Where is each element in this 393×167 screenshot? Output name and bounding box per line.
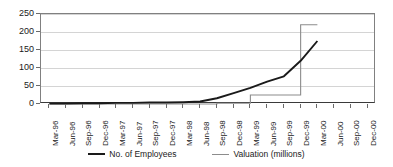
x-tick-mark: [132, 104, 133, 108]
x-tick-label: Sep-97: [152, 120, 160, 146]
x-tick-label: Mar-97: [119, 121, 127, 146]
x-tick-mark: [266, 104, 267, 108]
chart-container: 050100150200250 Mar-96Jun-96Sep-96Dec-96…: [0, 0, 393, 167]
x-tick-label: Mar-99: [253, 121, 261, 146]
x-tick-label: Jun-98: [203, 122, 211, 146]
x-tick-mark: [350, 104, 351, 108]
legend-item-employees: No. of Employees: [88, 150, 176, 159]
x-tick-label: Dec-98: [236, 120, 244, 146]
x-tick-mark: [249, 104, 250, 108]
x-tick-mark: [182, 104, 183, 108]
x-tick-mark: [166, 104, 167, 108]
y-tick-label: 150: [19, 45, 34, 54]
y-tick-label: 50: [24, 81, 34, 90]
series-line-valuation: [49, 25, 317, 104]
legend-swatch-employees-icon: [88, 153, 105, 155]
legend-label-employees: No. of Employees: [109, 150, 176, 159]
x-tick-mark: [48, 104, 49, 108]
y-tick-label: 250: [19, 9, 34, 18]
x-tick-label: Mar-98: [186, 121, 194, 146]
legend-item-valuation: Valuation (millions): [212, 150, 304, 159]
x-tick-mark: [65, 104, 66, 108]
legend-label-valuation: Valuation (millions): [233, 150, 304, 159]
x-tick-label: Dec-99: [303, 120, 311, 146]
y-tick-label: 0: [29, 99, 34, 108]
x-tick-mark: [216, 104, 217, 108]
x-tick-mark: [316, 104, 317, 108]
plot-area: [40, 13, 375, 103]
x-tick-label: Dec-00: [370, 120, 378, 146]
x-tick-label: Sep-98: [219, 120, 227, 146]
series-line-employees: [49, 41, 317, 104]
x-tick-mark: [333, 104, 334, 108]
x-tick-mark: [300, 104, 301, 108]
x-tick-label: Mar-96: [52, 121, 60, 146]
x-tick-label: Mar-00: [320, 121, 328, 146]
x-tick-label: Dec-97: [169, 120, 177, 146]
x-tick-mark: [367, 104, 368, 108]
chart-legend: No. of Employees Valuation (millions): [0, 147, 393, 161]
x-tick-label: Sep-99: [286, 120, 294, 146]
x-tick-mark: [99, 104, 100, 108]
x-tick-label: Jun-97: [136, 122, 144, 146]
x-tick-mark: [199, 104, 200, 108]
y-tick-label: 100: [19, 63, 34, 72]
x-tick-mark: [115, 104, 116, 108]
x-tick-label: Jun-00: [337, 122, 345, 146]
x-axis: Mar-96Jun-96Sep-96Dec-96Mar-97Jun-97Sep-…: [40, 104, 375, 152]
x-tick-label: Sep-96: [85, 120, 93, 146]
x-tick-label: Jun-96: [69, 122, 77, 146]
y-tick-label: 200: [19, 27, 34, 36]
x-tick-label: Jun-99: [270, 122, 278, 146]
x-tick-label: Sep-00: [353, 120, 361, 146]
x-tick-mark: [283, 104, 284, 108]
series-layer: [41, 14, 376, 104]
x-tick-mark: [149, 104, 150, 108]
x-tick-mark: [82, 104, 83, 108]
y-axis: 050100150200250: [0, 0, 37, 110]
x-tick-mark: [233, 104, 234, 108]
legend-swatch-valuation-icon: [212, 154, 229, 155]
x-tick-label: Dec-96: [102, 120, 110, 146]
